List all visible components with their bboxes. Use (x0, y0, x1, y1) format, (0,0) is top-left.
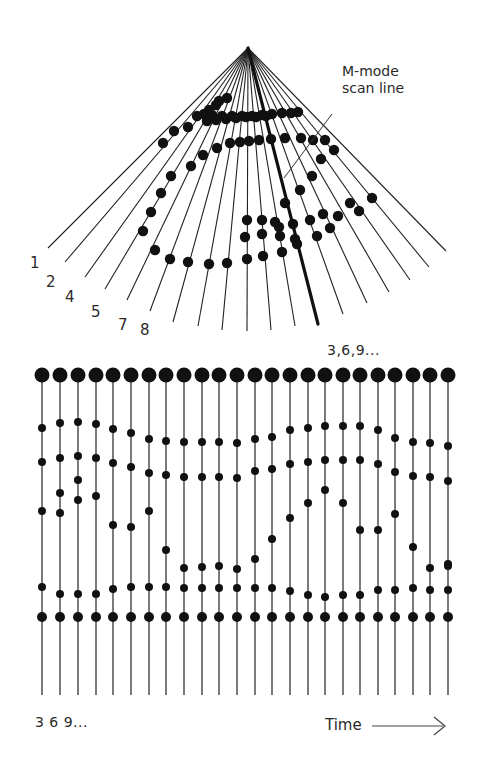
mmode-echo-dot (215, 438, 223, 446)
mmode-echo-dot (198, 438, 206, 446)
sector-scan-line (150, 48, 248, 311)
scan-line-number: 2 (46, 275, 56, 290)
mmode-deep-dot (390, 612, 400, 622)
mmode-surface-dot (177, 368, 192, 383)
mmode-echo-dot (56, 419, 64, 427)
mmode-deep-dot (214, 612, 224, 622)
mmode-echo-dot (127, 463, 135, 471)
mmode-surface-dot (388, 368, 403, 383)
mmode-label-line1: M-mode (342, 63, 404, 80)
echo-dot (275, 231, 285, 241)
mmode-echo-dot (304, 499, 312, 507)
mmode-echo-dot (426, 473, 434, 481)
echo-dot (329, 145, 339, 155)
mmode-echo-dot (391, 468, 399, 476)
sequence-label-top: 3,6,9... (327, 343, 380, 357)
mmode-surface-dot (124, 368, 139, 383)
mmode-echo-dot (391, 510, 399, 518)
mmode-surface-dot (142, 368, 157, 383)
mmode-surface-dot (71, 368, 86, 383)
echo-dot (274, 222, 284, 232)
echo-dot (293, 107, 303, 117)
echo-dot (235, 137, 245, 147)
mmode-echo-dot (145, 583, 153, 591)
mmode-echo-dot (92, 590, 100, 598)
echo-dot (258, 251, 268, 261)
mmode-surface-dot (336, 368, 351, 383)
echo-dot (277, 108, 287, 118)
mmode-surface-dot (318, 368, 333, 383)
echo-dot (325, 223, 335, 233)
mmode-echo-dot (38, 424, 46, 432)
mmode-echo-dot (92, 492, 100, 500)
echo-dot (221, 114, 231, 124)
mmode-echo-dot (286, 426, 294, 434)
echo-dot (156, 188, 166, 198)
mmode-echo-dot (444, 586, 452, 594)
echo-dot (166, 171, 176, 181)
mmode-echo-dot (233, 474, 241, 482)
mmode-echo-dot (145, 469, 153, 477)
mmode-surface-dot (53, 368, 68, 383)
mmode-echo-dot (374, 586, 382, 594)
mmode-echo-dot (162, 437, 170, 445)
mmode-deep-dot (55, 612, 65, 622)
echo-dot (257, 215, 267, 225)
mmode-echo-dot (162, 471, 170, 479)
mmode-echo-dot (56, 489, 64, 497)
mmode-deep-dot (126, 612, 136, 622)
mmode-echo-dot (268, 465, 276, 473)
echo-dot (241, 112, 251, 122)
mmode-echo-dot (180, 438, 188, 446)
mmode-echo-dot (162, 583, 170, 591)
mmode-deep-dot (161, 612, 171, 622)
mmode-echo-dot (215, 473, 223, 481)
mmode-echo-dot (92, 420, 100, 428)
mmode-echo-dot (268, 535, 276, 543)
mmode-deep-dot (320, 612, 330, 622)
mmode-echo-dots (35, 368, 456, 623)
mmode-echo-dot (321, 593, 329, 601)
mmode-deep-dot (408, 612, 418, 622)
sector-scan-line (222, 48, 248, 330)
mmode-deep-dot (355, 612, 365, 622)
mmode-echo-dot (409, 584, 417, 592)
mmode-echo-dot (180, 473, 188, 481)
echo-dot (251, 112, 261, 122)
echo-dot (231, 113, 241, 123)
mmode-echo-dot (180, 584, 188, 592)
mmode-deep-dot (197, 612, 207, 622)
echo-dot (222, 258, 232, 268)
mmode-echo-dot (74, 590, 82, 598)
mmode-echo-dot (339, 422, 347, 430)
mmode-echo-dot (198, 473, 206, 481)
echo-dot (242, 215, 252, 225)
mmode-deep-dot (267, 612, 277, 622)
echo-dot (333, 211, 343, 221)
ultrasound-mmode-diagram (0, 0, 480, 771)
mmode-surface-dot (265, 368, 280, 383)
mmode-echo-dot (374, 460, 382, 468)
mmode-echo-dot (339, 591, 347, 599)
mmode-echo-dot (74, 496, 82, 504)
mmode-deep-dot (73, 612, 83, 622)
mmode-echo-dot (321, 456, 329, 464)
mmode-surface-dot (406, 368, 421, 383)
mmode-echo-dot (409, 472, 417, 480)
mmode-deep-dot (37, 612, 47, 622)
echo-dot (254, 135, 264, 145)
echo-dot (146, 207, 156, 217)
mmode-echo-dot (127, 429, 135, 437)
mmode-echo-dot (356, 422, 364, 430)
echo-dot (242, 254, 252, 264)
time-arrow-icon (372, 717, 445, 735)
mmode-echo-dot (356, 591, 364, 599)
mmode-echo-dot (251, 467, 259, 475)
mmode-echo-dot (251, 584, 259, 592)
mmode-echo-dot (74, 476, 82, 484)
mmode-echo-dot (38, 458, 46, 466)
mmode-echo-dot (215, 584, 223, 592)
mmode-echo-dot (286, 460, 294, 468)
sector-scan-line (173, 48, 248, 322)
mmode-echo-dot (286, 587, 294, 595)
